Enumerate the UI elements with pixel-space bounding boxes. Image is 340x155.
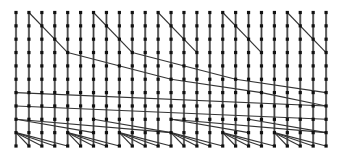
node-dot: [27, 104, 30, 107]
node-dot: [144, 38, 147, 41]
node-dot: [40, 51, 43, 54]
edge-line: [223, 13, 262, 53]
node-dot: [169, 11, 172, 14]
node-dot: [157, 144, 160, 147]
node-dot: [53, 11, 56, 14]
node-dot: [131, 24, 134, 27]
node-dot: [208, 24, 211, 27]
node-dot: [92, 64, 95, 67]
node-dot: [208, 91, 211, 94]
node-dot: [105, 104, 108, 107]
node-dot: [247, 118, 250, 121]
node-dot: [40, 144, 43, 147]
node-dot: [27, 144, 30, 147]
node-dot: [312, 51, 315, 54]
node-dot: [27, 38, 30, 41]
edge-line: [94, 13, 133, 53]
edge-line: [29, 13, 68, 53]
node-dot: [221, 11, 224, 14]
node-dot: [131, 38, 134, 41]
node-dot: [234, 118, 237, 121]
node-dot: [79, 144, 82, 147]
node-dot: [118, 144, 121, 147]
node-dot: [169, 51, 172, 54]
node-dot: [105, 118, 108, 121]
node-dot: [27, 51, 30, 54]
node-dot: [182, 64, 185, 67]
node-dot: [169, 64, 172, 67]
node-dot: [118, 38, 121, 41]
node-dot: [182, 24, 185, 27]
node-dot: [157, 91, 160, 94]
node-dot: [66, 144, 69, 147]
node-dot: [324, 104, 327, 107]
node-dot: [157, 78, 160, 81]
node-dot: [105, 64, 108, 67]
node-dot: [53, 118, 56, 121]
node-dot: [324, 24, 327, 27]
node-dot: [195, 104, 198, 107]
node-dot: [312, 104, 315, 107]
node-dot: [208, 64, 211, 67]
node-dot: [221, 131, 224, 134]
node-dot: [66, 24, 69, 27]
node-dot: [79, 91, 82, 94]
node-dot: [66, 118, 69, 121]
node-dot: [66, 38, 69, 41]
node-dot: [247, 131, 250, 134]
node-dot: [286, 91, 289, 94]
node-dot: [169, 24, 172, 27]
node-dot: [273, 64, 276, 67]
node-dot: [299, 51, 302, 54]
node-dot: [221, 51, 224, 54]
node-dot: [312, 11, 315, 14]
node-dot: [92, 11, 95, 14]
node-dot: [260, 91, 263, 94]
node-dot: [27, 24, 30, 27]
node-dot: [182, 131, 185, 134]
node-dot: [79, 11, 82, 14]
node-dot: [27, 11, 30, 14]
node-dot: [247, 78, 250, 81]
edge-line: [287, 13, 326, 53]
node-dot: [234, 51, 237, 54]
node-dot: [221, 104, 224, 107]
node-dot: [273, 104, 276, 107]
node-dot: [195, 38, 198, 41]
node-dot: [27, 78, 30, 81]
node-dot: [182, 104, 185, 107]
node-dot: [131, 131, 134, 134]
node-dot: [144, 144, 147, 147]
node-dot: [324, 11, 327, 14]
node-dot: [144, 78, 147, 81]
node-dot: [324, 51, 327, 54]
node-dot: [105, 131, 108, 134]
node-dot: [273, 38, 276, 41]
node-dot: [105, 78, 108, 81]
node-dot: [286, 118, 289, 121]
node-dot: [40, 11, 43, 14]
node-dot: [79, 24, 82, 27]
node-dot: [260, 24, 263, 27]
node-dot: [27, 64, 30, 67]
node-dot: [247, 91, 250, 94]
edge-line: [158, 13, 197, 53]
node-dot: [286, 104, 289, 107]
node-dot: [66, 104, 69, 107]
node-dot: [144, 24, 147, 27]
node-dot: [105, 24, 108, 27]
node-dot: [40, 78, 43, 81]
node-dot: [324, 118, 327, 121]
node-dot: [182, 51, 185, 54]
node-dot: [131, 91, 134, 94]
node-dot: [27, 118, 30, 121]
node-dot: [247, 104, 250, 107]
node-dot: [299, 104, 302, 107]
node-dot: [131, 118, 134, 121]
node-dot: [234, 64, 237, 67]
node-dot: [40, 131, 43, 134]
node-dot: [312, 131, 315, 134]
node-dot: [221, 91, 224, 94]
node-dot: [169, 118, 172, 121]
node-dot: [273, 118, 276, 121]
